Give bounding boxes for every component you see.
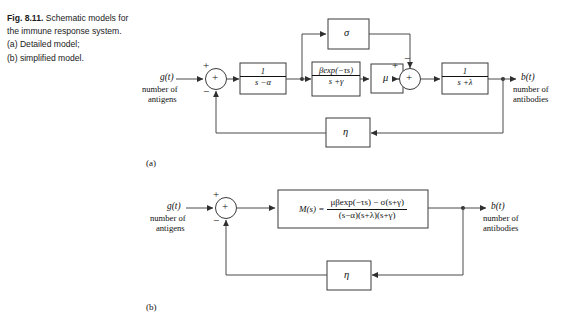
sum-glyph-b: + bbox=[222, 200, 228, 212]
sum1-plus-sign-a: + bbox=[203, 59, 209, 71]
output-signal-b: b(t) bbox=[491, 201, 505, 211]
block-M-of-s-lhs: M(s) = bbox=[299, 204, 324, 214]
output-desc-a-line1: number of bbox=[513, 84, 549, 94]
block-beta-exp-denominator: s +γ bbox=[312, 75, 360, 86]
block-1-over-s-plus-lambda-denominator: s +λ bbox=[442, 76, 488, 87]
sum2-glyph-a: + bbox=[406, 71, 412, 83]
output-desc-a-line2: antibodies bbox=[513, 94, 548, 104]
part-label-b: (b) bbox=[146, 302, 157, 312]
output-signal-a: b(t) bbox=[521, 72, 535, 82]
block-1-over-s-plus-lambda: 1 s +λ bbox=[442, 66, 488, 87]
sum2-plus-sign-a: + bbox=[392, 59, 398, 71]
figure-block-diagrams: g(t) number of antigens + − + 1 s −α βex… bbox=[0, 0, 562, 324]
block-mu-label: μ bbox=[383, 72, 388, 83]
part-label-a: (a) bbox=[146, 158, 156, 168]
input-signal-a: g(t) bbox=[160, 72, 174, 82]
sum-plus-sign-b: + bbox=[213, 188, 219, 200]
block-1-over-s-minus-alpha-numerator: 1 bbox=[240, 66, 286, 76]
sum1-minus-sign-a: − bbox=[203, 85, 209, 97]
sum1-glyph-a: + bbox=[212, 71, 218, 83]
block-M-of-s-fraction: μβexp(−τs) − σ(s+γ) (s−α)(s+λ)(s+γ) bbox=[327, 197, 407, 221]
sum-minus-sign-b: − bbox=[213, 214, 219, 226]
block-beta-exp: βexp(−τs) s +γ bbox=[312, 65, 360, 86]
sum2-minus-sign-a: − bbox=[404, 52, 410, 64]
block-beta-exp-numerator: βexp(−τs) bbox=[312, 65, 360, 75]
block-sigma-label: σ bbox=[344, 27, 349, 38]
block-1-over-s-minus-alpha-denominator: s −α bbox=[240, 76, 286, 87]
block-M-of-s: M(s) = μβexp(−τs) − σ(s+γ) (s−α)(s+λ)(s+… bbox=[278, 190, 428, 228]
block-eta-label-b: η bbox=[344, 269, 349, 280]
input-desc-a-line2: antigens bbox=[148, 94, 177, 104]
diagram-lines bbox=[0, 0, 562, 324]
input-signal-b: g(t) bbox=[167, 201, 181, 211]
output-desc-b-line1: number of bbox=[483, 213, 519, 223]
input-desc-b-line1: number of bbox=[150, 213, 186, 223]
input-desc-b-line2: antigens bbox=[156, 223, 185, 233]
block-1-over-s-plus-lambda-numerator: 1 bbox=[442, 66, 488, 76]
input-desc-a-line1: number of bbox=[142, 84, 178, 94]
output-desc-b-line2: antibodies bbox=[483, 223, 518, 233]
block-M-of-s-denominator: (s−α)(s+λ)(s+γ) bbox=[327, 209, 407, 222]
block-1-over-s-minus-alpha: 1 s −α bbox=[240, 66, 286, 87]
block-M-of-s-numerator: μβexp(−τs) − σ(s+γ) bbox=[327, 197, 407, 209]
block-eta-label-a: η bbox=[343, 126, 348, 137]
